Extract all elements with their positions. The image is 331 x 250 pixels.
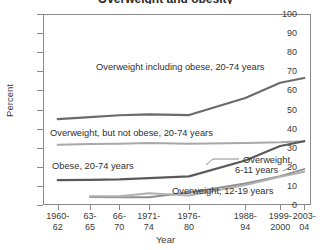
x-tick-mark [304,205,305,210]
x-tick-label-line: 2000 [269,222,292,233]
chart-title: Overweight and obesity [0,0,331,4]
annotation-obese: Obese, 20-74 years [52,161,134,171]
x-tick-label: 66-70 [113,211,126,232]
x-tick-label-line: 1976- [178,211,201,222]
x-tick-label-line: 65 [83,222,96,233]
x-tick-mark [90,205,91,210]
x-tick-label-line: 1999- [269,211,292,222]
x-tick-label-line: 66- [113,211,126,222]
x-tick-label-line: 1988- [234,211,257,222]
x-tick-label-line: 80 [178,222,201,233]
x-tick-label-line: 70 [113,222,126,233]
y-axis: Percent [0,0,43,250]
x-tick-mark [58,205,59,210]
x-tick-label-line: 04 [293,222,316,233]
x-tick-label: 1971-74 [137,211,160,232]
x-tick-label-line: 1971- [137,211,160,222]
leader-lines [43,14,311,205]
x-tick-mark [119,205,120,210]
annotation-overweight-including-obese: Overweight including obese, 20-74 years [96,62,264,72]
x-tick-label-line: 62 [46,222,69,233]
x-tick-mark [149,205,150,210]
annotation-overweight-6-11-line2: 6-11 years [235,165,278,175]
x-tick-mark [189,205,190,210]
x-tick-mark [280,205,281,210]
x-tick-label-line: 2003- [293,211,316,222]
x-tick-label: 1988-94 [234,211,257,232]
chart-container: Overweight and obesity Percent 010203040… [0,0,331,250]
x-axis-title: Year [0,234,331,245]
x-tick-label-line: 1960- [46,211,69,222]
x-tick-label-line: 74 [137,222,160,233]
annotation-overweight-not-obese: Overweight, but not obese, 20-74 years [50,128,213,138]
x-tick-label: 2003-04 [293,211,316,232]
annotation-overweight-12-19: Overweight, 12-19 years [172,186,273,196]
y-tick-mark [37,205,43,206]
x-tick-label-line: 63- [83,211,96,222]
x-tick-label: 1999-2000 [269,211,292,232]
y-axis-title: Percent [4,61,15,141]
x-tick-label: 63-65 [83,211,96,232]
x-tick-label-line: 94 [234,222,257,233]
x-tick-label: 1976-80 [178,211,201,232]
annotation-overweight-6-11-line1: Overweight, [243,155,293,165]
x-tick-mark [245,205,246,210]
x-tick-label: 1960-62 [46,211,69,232]
